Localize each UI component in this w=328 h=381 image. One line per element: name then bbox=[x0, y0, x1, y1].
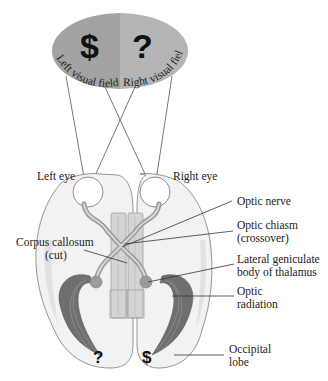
right-eye-label: Right eye bbox=[173, 170, 217, 183]
split-brain-visual-pathway-diagram: $ ? Left visual field Right visual field bbox=[0, 0, 328, 381]
optic-chiasm-label: Optic chiasm bbox=[237, 219, 298, 232]
optic-chiasm-sublabel: (crossover) bbox=[237, 232, 289, 245]
optic-radiation-label: Optic bbox=[237, 285, 263, 298]
left-occipital-question-symbol: ? bbox=[93, 348, 103, 367]
optic-radiation-sublabel: radiation bbox=[237, 298, 278, 310]
right-field-question-symbol: ? bbox=[132, 27, 153, 65]
lateral-geniculate-left bbox=[90, 276, 102, 288]
left-eye-label: Left eye bbox=[37, 170, 75, 183]
corpus-callosum-label: Corpus callosum bbox=[16, 236, 94, 249]
right-eye bbox=[140, 177, 170, 207]
occipital-lobe-sublabel: lobe bbox=[229, 356, 249, 368]
lateral-geniculate-right bbox=[140, 276, 152, 288]
left-eye bbox=[73, 177, 103, 207]
lateral-geniculate-label: Lateral geniculate bbox=[237, 253, 320, 266]
optic-nerve-label: Optic nerve bbox=[237, 195, 291, 208]
occipital-lobe-label: Occipital bbox=[229, 343, 271, 356]
corpus-callosum-sublabel: (cut) bbox=[45, 249, 67, 262]
right-occipital-dollar-symbol: $ bbox=[142, 348, 152, 367]
left-field-dollar-symbol: $ bbox=[80, 27, 99, 65]
visual-field-oval: $ ? Left visual field Right visual field bbox=[0, 0, 192, 95]
lateral-geniculate-sublabel: body of thalamus bbox=[237, 266, 317, 279]
